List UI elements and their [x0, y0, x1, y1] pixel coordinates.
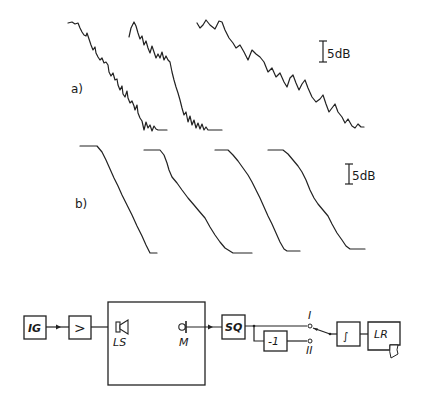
lr-label: LR	[374, 328, 388, 341]
level-recorder-block: LR	[368, 322, 400, 358]
decay-curve-b3	[215, 150, 300, 251]
ig-label: IG	[28, 322, 41, 335]
impulse-generator-block: IG	[24, 316, 46, 339]
scale-label-a: 5dB	[327, 47, 350, 61]
block-diagram: IG > LS M SQ	[24, 302, 400, 385]
scale-bar-a: 5dB	[319, 41, 350, 62]
panel-b-label: b)	[75, 197, 87, 211]
selector-switch: I II	[306, 309, 331, 357]
paper-strip-icon	[390, 345, 398, 358]
arrow-icon	[208, 325, 213, 330]
panel-a: a) 5dB	[68, 20, 364, 131]
amplifier-label: >	[74, 320, 86, 336]
scale-bar-b: 5dB	[345, 164, 375, 184]
decay-curve-a2	[129, 22, 222, 130]
switch-pos-ii-label: II	[306, 344, 313, 357]
switch-pos-i-label: I	[308, 309, 311, 322]
integrator-label: ∫	[343, 330, 349, 343]
decay-curve-a3	[197, 20, 364, 128]
decay-curve-b4	[268, 150, 365, 249]
inverter-label: -1	[268, 335, 279, 348]
squarer-block: SQ	[222, 315, 245, 339]
integrator-block: ∫	[337, 322, 360, 346]
scale-label-b: 5dB	[352, 169, 375, 183]
amplifier-block: >	[69, 316, 91, 339]
inverter-block: -1	[264, 331, 287, 351]
ls-label: LS	[113, 336, 126, 349]
panel-a-label: a)	[71, 82, 83, 96]
sq-label: SQ	[225, 321, 242, 334]
decay-curve-b2	[144, 150, 252, 253]
decay-curve-a1	[68, 22, 167, 131]
arrow-icon	[56, 325, 61, 330]
m-label: M	[179, 336, 189, 349]
decay-curve-b1	[80, 146, 157, 253]
panel-b: b) 5dB	[75, 146, 375, 253]
figure: a) 5dB b) 5dB	[0, 0, 426, 412]
